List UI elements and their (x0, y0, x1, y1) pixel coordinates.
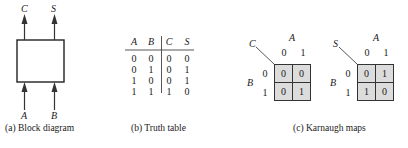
block-diagram-caption: (a) Block diagram (5, 123, 74, 133)
arrowhead-b (52, 82, 58, 92)
kmap-c-cell: 1 (292, 82, 311, 101)
arrowhead-a (22, 82, 28, 92)
output-label-s: S (51, 4, 56, 14)
truth-table-cell: 1 (182, 65, 192, 75)
arrowhead-c (22, 14, 28, 24)
block-box (17, 40, 64, 82)
kmap-s-output-label: S (333, 39, 338, 49)
kmap-s-cell: 0 (375, 82, 394, 101)
kmap-c-row-var: B (247, 78, 253, 88)
truth-table-cell: 0 (164, 76, 174, 86)
kmap-s-row-label: 1 (343, 88, 353, 98)
truth-table-cell: 1 (129, 87, 139, 97)
truth-table-header: A (129, 37, 139, 47)
truth-table-header: B (146, 37, 156, 47)
truth-table-cell: 1 (164, 87, 174, 97)
truth-table-cell: 1 (129, 76, 139, 86)
input-label-a: A (21, 111, 27, 121)
arrowhead-s (52, 14, 58, 24)
kmap-c-row-label: 0 (260, 69, 270, 79)
truth-table-cell: 0 (129, 65, 139, 75)
kmap-c-cell: 0 (274, 64, 293, 83)
output-label-c: C (21, 4, 28, 14)
kmap-s-diagonal (339, 47, 357, 64)
kmap-s-cell: 0 (357, 64, 376, 83)
kmap-s-row-var: B (330, 78, 336, 88)
truth-table-cell: 0 (164, 65, 174, 75)
truth-table-caption: (b) Truth table (131, 123, 186, 133)
kmap-c-output-label: C (249, 39, 256, 49)
truth-table-cell: 0 (129, 54, 139, 64)
kmap-s-col-label: 0 (362, 48, 372, 58)
kmap-c-cell: 0 (274, 82, 293, 101)
truth-table-cell: 1 (146, 87, 156, 97)
kmap-c-col-label: 0 (279, 48, 289, 58)
kmap-c-row-label: 1 (260, 88, 270, 98)
truth-table-header: C (164, 37, 174, 47)
kmap-s-cell: 1 (375, 64, 394, 83)
kmap-s-col-var: A (373, 33, 379, 43)
kmap-c-col-label: 1 (298, 48, 308, 58)
truth-table-cell: 0 (182, 54, 192, 64)
kmap-s-row-label: 0 (343, 69, 353, 79)
kmap-s-col-label: 1 (381, 48, 391, 58)
truth-table-cell: 1 (182, 76, 192, 86)
truth-table-cell: 0 (146, 54, 156, 64)
kmap-c-cell: 0 (292, 64, 311, 83)
truth-table-cell: 1 (146, 65, 156, 75)
kmap-c-col-var: A (289, 33, 295, 43)
kmap-c-diagonal (256, 47, 274, 64)
kmap-s-cell: 1 (357, 82, 376, 101)
truth-table-cell: 0 (182, 87, 192, 97)
karnaugh-maps-caption: (c) Karnaugh maps (293, 123, 366, 133)
truth-table-cell: 0 (146, 76, 156, 86)
truth-table-header: S (182, 37, 192, 47)
input-label-b: B (51, 111, 57, 121)
truth-table-cell: 0 (164, 54, 174, 64)
